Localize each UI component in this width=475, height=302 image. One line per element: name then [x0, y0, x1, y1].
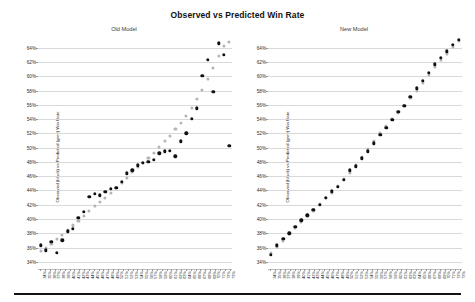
grid-line	[38, 62, 232, 63]
y-tick-label: 54%	[257, 117, 266, 122]
y-tick-label: 36%	[27, 245, 36, 250]
y-tick-mark	[36, 76, 38, 77]
panel-old-model: Old Model Observed (black) vs Predicted …	[10, 26, 238, 288]
y-tick-mark	[36, 48, 38, 49]
observed-point	[174, 155, 177, 158]
x-tick-label: 68%	[437, 271, 442, 279]
observed-point	[378, 133, 381, 136]
predicted-point	[152, 151, 155, 154]
y-tick-mark	[266, 62, 268, 63]
y-tick-label: 40%	[257, 217, 266, 222]
y-tick-mark	[266, 119, 268, 120]
y-tick-label: 44%	[257, 188, 266, 193]
observed-point	[217, 42, 220, 45]
y-tick-label: 40%	[27, 217, 36, 222]
grid-line	[38, 248, 232, 249]
predicted-point	[104, 196, 107, 199]
observed-point	[184, 132, 187, 135]
predicted-point	[206, 78, 209, 81]
y-tick-mark	[266, 48, 268, 49]
y-tick-label: 64%	[257, 45, 266, 50]
observed-point	[360, 157, 363, 160]
observed-point	[190, 117, 193, 120]
grid-line	[268, 119, 462, 120]
grid-line	[38, 205, 232, 206]
predicted-point	[212, 66, 215, 69]
predicted-point	[77, 220, 80, 223]
observed-point	[366, 150, 369, 153]
observed-point	[385, 126, 388, 129]
y-tick-mark	[266, 133, 268, 134]
grid-line	[38, 262, 232, 263]
y-tick-label: 58%	[27, 88, 36, 93]
observed-point	[163, 150, 166, 153]
observed-point	[336, 185, 339, 188]
y-tick-label: 48%	[27, 159, 36, 164]
observed-point	[104, 190, 107, 193]
y-tick-label: 52%	[27, 131, 36, 136]
x-tick-mark	[50, 269, 51, 271]
grid-line	[268, 190, 462, 191]
observed-point	[61, 239, 64, 242]
observed-point	[168, 149, 171, 152]
predicted-point	[179, 121, 182, 124]
observed-point	[222, 53, 225, 56]
predicted-point	[88, 210, 91, 213]
y-tick-mark	[36, 262, 38, 263]
observed-point	[269, 253, 272, 256]
observed-point	[93, 192, 96, 195]
observed-point	[125, 172, 128, 175]
x-tick-label: 35%	[47, 271, 52, 279]
predicted-point	[217, 55, 220, 58]
observed-point	[147, 160, 150, 163]
predicted-point	[190, 106, 193, 109]
grid-line	[268, 162, 462, 163]
y-tick-mark	[266, 105, 268, 106]
y-tick-mark	[266, 162, 268, 163]
grid-line	[38, 133, 232, 134]
y-tick-label: 46%	[27, 174, 36, 179]
grid-line	[268, 91, 462, 92]
y-tick-label: 56%	[27, 102, 36, 107]
grid-line	[38, 105, 232, 106]
x-tick-mark	[280, 269, 281, 271]
y-tick-mark	[36, 105, 38, 106]
predicted-point	[109, 192, 112, 195]
y-tick-mark	[266, 176, 268, 177]
grid-line	[38, 233, 232, 234]
x-tick-label: 48%	[110, 271, 115, 279]
observed-point	[391, 118, 394, 121]
y-tick-mark	[266, 248, 268, 249]
grid-line	[268, 248, 462, 249]
observed-point	[82, 210, 85, 213]
y-tick-label: 48%	[257, 159, 266, 164]
grid-line	[268, 148, 462, 149]
predicted-point	[39, 250, 42, 253]
y-tick-mark	[266, 205, 268, 206]
plot-area-old-model: 34%36%38%40%42%44%46%48%50%52%54%56%58%6…	[38, 37, 232, 269]
y-tick-label: 42%	[27, 202, 36, 207]
y-tick-label: 62%	[27, 59, 36, 64]
y-tick-label: 52%	[257, 131, 266, 136]
y-tick-label: 44%	[27, 188, 36, 193]
predicted-point	[125, 176, 128, 179]
y-tick-mark	[36, 133, 38, 134]
observed-point	[354, 165, 357, 168]
grid-line	[38, 119, 232, 120]
predicted-point	[195, 98, 198, 101]
grid-line	[38, 219, 232, 220]
predicted-point	[433, 65, 436, 68]
x-tick-label: 73%	[231, 271, 236, 279]
predicted-point	[228, 40, 231, 43]
panel-title-new-model: New Model	[240, 26, 468, 32]
panel-new-model: New Model Observed (black) vs Predicted …	[240, 26, 468, 288]
predicted-point	[185, 114, 188, 117]
y-tick-mark	[36, 248, 38, 249]
grid-line	[268, 219, 462, 220]
bottom-rule	[14, 293, 461, 295]
predicted-point	[168, 134, 171, 137]
y-tick-mark	[36, 233, 38, 234]
y-tick-label: 50%	[257, 145, 266, 150]
grid-line	[38, 190, 232, 191]
y-tick-label: 36%	[257, 245, 266, 250]
